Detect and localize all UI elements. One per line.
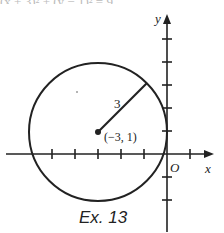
radius-line xyxy=(98,83,147,132)
origin-label: O xyxy=(170,160,180,175)
y-axis-label: y xyxy=(153,11,161,26)
center-label: (−3, 1) xyxy=(104,130,137,144)
caption: Ex. 13 xyxy=(79,208,127,228)
center-point xyxy=(95,129,101,135)
x-arrow-icon xyxy=(204,150,214,158)
circle-diagram: y x O 3 (−3, 1) xyxy=(0,0,224,233)
radius-label: 3 xyxy=(114,96,121,111)
y-arrow-icon xyxy=(163,14,171,24)
x-axis-label: x xyxy=(204,161,211,176)
